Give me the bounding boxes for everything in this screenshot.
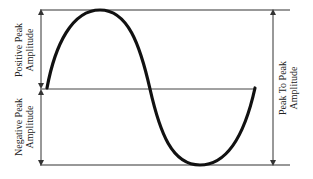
negative-peak-label-line1: Negative Peak xyxy=(13,98,24,156)
positive-peak-label-line2: Amplitude xyxy=(24,28,35,71)
negative-peak-label-line2: Amplitude xyxy=(24,105,35,148)
sine-wave xyxy=(47,10,255,165)
positive-peak-label-line1: Positive Peak xyxy=(13,23,24,77)
peak-to-peak-label-line1: Peak To Peak xyxy=(277,61,288,115)
sine-wave-diagram: Positive Peak Amplitude Negative Peak Am… xyxy=(0,0,313,179)
negative-peak-label: Negative Peak Amplitude xyxy=(13,98,35,156)
positive-peak-label: Positive Peak Amplitude xyxy=(13,23,35,77)
peak-to-peak-label: Peak To Peak Amplitude xyxy=(277,61,299,115)
peak-to-peak-label-line2: Amplitude xyxy=(288,66,299,109)
